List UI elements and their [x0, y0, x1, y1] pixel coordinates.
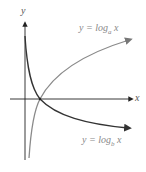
- log-graph: [0, 0, 146, 172]
- log-a-label-prefix: y = log: [79, 22, 108, 33]
- log-a-var: x: [114, 22, 118, 33]
- log-b-label: y = logb x: [82, 135, 121, 148]
- y-axis-label: y: [21, 6, 25, 16]
- log-b-var: x: [117, 134, 121, 145]
- intersection-point: [39, 98, 41, 100]
- log-b-curve: [25, 36, 128, 128]
- log-b-label-prefix: y = log: [82, 134, 111, 145]
- x-axis-label: x: [135, 93, 139, 103]
- log-a-label: y = loga x: [79, 23, 118, 36]
